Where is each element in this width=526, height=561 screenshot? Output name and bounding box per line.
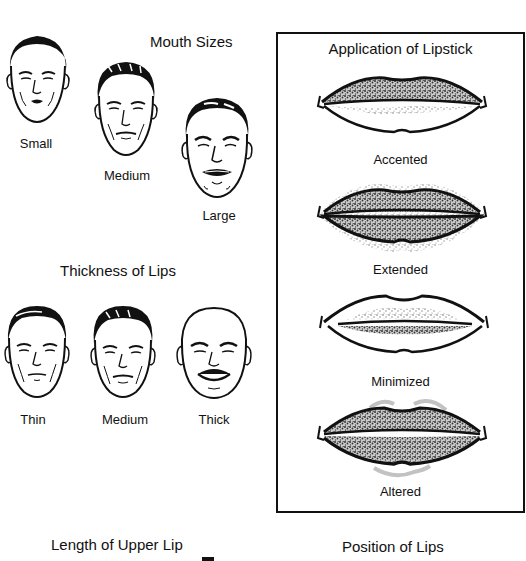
mouth-sizes-title: Mouth Sizes [150,33,233,50]
lips-minimized-label: Minimized [276,374,525,389]
lips-accented-label: Accented [276,152,525,167]
face-large-mouth-illustration [178,94,256,204]
face-thin-label: Thin [8,412,58,427]
face-large-label: Large [186,208,252,223]
illustration-fragment [202,557,214,561]
face-medium-lips-label: Medium [92,412,158,427]
face-medium-mouth-illustration [90,56,162,164]
face-small-label: Small [6,136,66,151]
lips-accented-illustration [314,70,490,140]
length-of-upper-lip-title: Length of Upper Lip [51,536,183,553]
lips-minimized-illustration [316,290,492,360]
position-of-lips-title: Position of Lips [342,538,444,555]
application-of-lipstick-title: Application of Lipstick [276,40,525,57]
lips-altered-illustration [314,396,490,480]
face-thick-label: Thick [186,412,242,427]
face-thin-lips-illustration [2,302,72,404]
face-thick-lips-illustration [174,304,254,404]
lips-extended-label: Extended [276,262,525,277]
face-medium-lips-illustration [88,302,158,404]
face-small-mouth-illustration [2,30,72,130]
face-medium-label: Medium [94,168,160,183]
lips-altered-label: Altered [276,484,525,499]
thickness-of-lips-title: Thickness of Lips [60,262,176,279]
lips-extended-illustration [314,178,490,256]
